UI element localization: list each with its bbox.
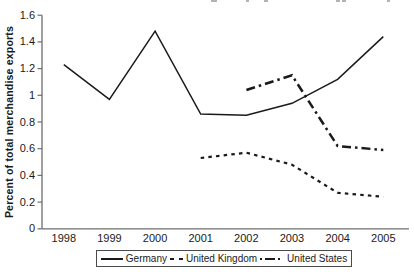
y-tick-label: 1.2 xyxy=(20,62,35,74)
legend-line-sample xyxy=(101,255,123,263)
legend-label: United Kingdom xyxy=(186,253,257,264)
legend-label: United States xyxy=(287,253,347,264)
y-tick-label: 0.4 xyxy=(20,169,35,181)
series-line-united-kingdom xyxy=(201,153,384,197)
x-tick-label: 2003 xyxy=(280,232,304,244)
legend-item: United Kingdom xyxy=(170,253,257,264)
legend: GermanyUnited KingdomUnited States xyxy=(96,250,352,267)
legend-line-sample xyxy=(170,255,183,263)
series-line-united-states xyxy=(246,75,383,150)
figure: Percent of total merchandise exports 00.… xyxy=(0,0,414,279)
y-tick-label: 0.6 xyxy=(20,142,35,154)
x-tick-label: 2002 xyxy=(234,232,258,244)
series-line-germany xyxy=(64,31,384,115)
chart-canvas: 00.20.40.60.811.21.41.619981999200020012… xyxy=(0,0,414,279)
y-tick-label: 0.2 xyxy=(20,196,35,208)
x-tick-label: 1999 xyxy=(97,232,121,244)
y-tick-label: 1.4 xyxy=(20,35,35,47)
x-tick-label: 2000 xyxy=(143,232,167,244)
x-tick-label: 2004 xyxy=(325,232,349,244)
y-tick-label: 0.8 xyxy=(20,116,35,128)
legend-item: Germany xyxy=(101,253,167,264)
legend-item: United States xyxy=(260,253,347,264)
legend-label: Germany xyxy=(126,253,167,264)
y-tick-label: 0 xyxy=(29,222,35,234)
x-tick-label: 2001 xyxy=(188,232,212,244)
legend-line-sample xyxy=(260,255,284,263)
x-tick-label: 2005 xyxy=(371,232,395,244)
y-tick-label: 1.6 xyxy=(20,9,35,21)
x-tick-label: 1998 xyxy=(52,232,76,244)
y-tick-label: 1 xyxy=(29,89,35,101)
